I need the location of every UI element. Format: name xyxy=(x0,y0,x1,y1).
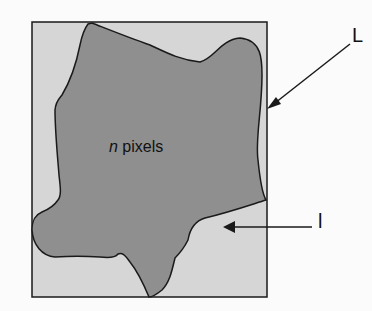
region-label-rest: pixels xyxy=(118,138,163,155)
arrow-L-head xyxy=(267,97,281,109)
label-l: l xyxy=(318,210,322,233)
arrow-L-shaft xyxy=(275,44,350,103)
region-label: n pixels xyxy=(109,138,163,156)
region-label-italic: n xyxy=(109,138,118,155)
diagram-canvas xyxy=(0,0,372,311)
label-L: L xyxy=(352,24,363,47)
